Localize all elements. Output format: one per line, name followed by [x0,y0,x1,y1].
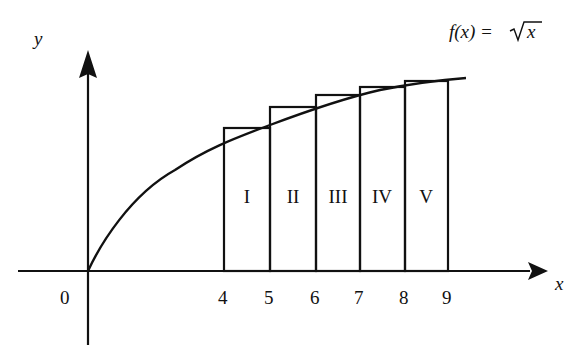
rect-label-I: I [244,186,250,207]
rect-label-II: II [287,186,300,207]
riemann-sum-diagram: y x 0 4 5 6 7 8 9 I II III IV V f(x) = x [0,0,579,361]
rectangle-V [405,81,448,271]
x-tick-8: 8 [399,287,409,308]
rect-label-III: III [329,186,348,207]
y-axis-label: y [32,28,43,49]
x-axis-arrowhead-icon [528,262,548,280]
rect-label-IV: IV [372,186,392,207]
radical-sign-icon [510,22,542,40]
y-axis-arrowhead-icon [79,50,97,78]
x-tick-7: 7 [354,287,364,308]
x-tick-4: 4 [218,287,228,308]
origin-label: 0 [60,287,70,308]
rectangle-III [316,95,360,271]
x-tick-6: 6 [310,287,320,308]
rectangle-IV [360,87,405,271]
svg-text:x: x [526,21,536,42]
svg-text:f(x) =: f(x) = [449,21,493,43]
x-tick-5: 5 [264,287,274,308]
rect-label-V: V [419,186,433,207]
x-tick-9: 9 [442,287,452,308]
x-axis-label: x [554,273,564,294]
function-label: f(x) = x [449,21,542,43]
